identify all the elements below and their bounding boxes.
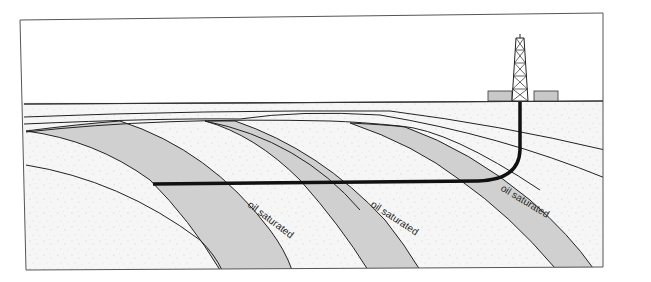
geologic-cross-section: oil saturated oil saturated oil saturate… (0, 0, 651, 282)
